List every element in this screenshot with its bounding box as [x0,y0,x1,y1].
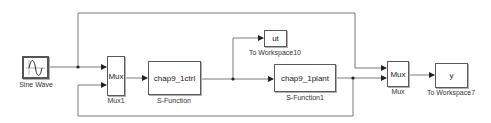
sine-wave-label: Sine Wave [19,81,53,88]
signal-lines [0,0,491,123]
line-ctrl-ws10 [233,38,263,79]
mux1-label: Mux1 [107,97,124,104]
plant-sfunction-block[interactable]: chap9_1plant [274,64,336,92]
plant-sfunction-label: S-Function1 [286,94,324,101]
mux1-text: Mux [108,72,123,81]
mux-block[interactable]: Mux [387,61,409,87]
sine-wave-block[interactable] [22,56,49,79]
junction-dot [76,65,79,68]
plant-sfunction-text: chap9_1plant [281,74,329,83]
ctrl-sfunction-block[interactable]: chap9_1ctrl [148,61,201,95]
junction-dot [351,76,354,79]
ws7-block[interactable]: y [435,63,468,88]
ctrl-sfunction-label: S-Function [157,97,191,104]
ws7-text: y [450,71,454,80]
sine-wave-icon [25,59,46,76]
ctrl-sfunction-text: chap9_1ctrl [154,74,195,83]
ws10-text: ut [272,34,279,43]
mux-text: Mux [390,70,405,79]
ws7-label: To Workspace7 [427,89,475,96]
mux-label: Mux [391,88,404,95]
junction-dot [231,77,234,80]
ws10-label: To Workspace10 [249,49,301,56]
ws10-block[interactable]: ut [264,30,287,47]
mux1-block[interactable]: Mux [107,56,125,96]
